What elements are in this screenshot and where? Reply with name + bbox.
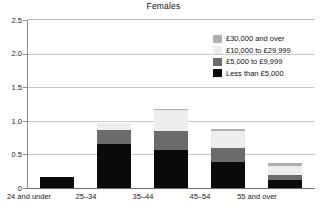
bar-segment-30000-and-over[interactable] [268, 163, 302, 166]
legend-item-10000-to-29999[interactable]: £10,000 to £29,999 [213, 45, 325, 57]
chart-title: Females [0, 1, 327, 11]
bar-segment-10000-to-29999[interactable] [211, 131, 245, 148]
bar-segment-less-than-5000[interactable] [97, 144, 131, 188]
chart-legend: £30,000 and over £10,000 to £29,999 £5,0… [213, 33, 325, 79]
bar-segment-less-than-5000[interactable] [268, 180, 302, 188]
legend-item-30000-and-over[interactable]: £30,000 and over [213, 33, 325, 45]
bar-segment-less-than-5000[interactable] [40, 177, 74, 188]
legend-swatch-less-than-5000 [213, 69, 222, 77]
y-axis-label-0-5: 0.5 [0, 150, 22, 159]
legend-item-5000-to-9999[interactable]: £5,000 to £9,999 [213, 56, 325, 68]
bar-segment-less-than-5000[interactable] [211, 162, 245, 188]
chart-container: Females 2.5 2.0 1.5 1.0 0.5 0 [0, 0, 327, 214]
gridline-1-5 [28, 87, 315, 88]
y-axis-label-2-0: 2.0 [0, 49, 22, 58]
legend-item-less-than-5000[interactable]: Less than £5,000 [213, 68, 325, 80]
bar-segment-10000-to-29999[interactable] [154, 110, 188, 131]
legend-label-5000-to-9999: £5,000 to £9,999 [226, 58, 282, 66]
bar-segment-30000-and-over[interactable] [211, 129, 245, 131]
y-axis-label-2-5: 2.5 [0, 16, 22, 25]
legend-swatch-30000-and-over [213, 35, 222, 43]
bar-segment-5000-to-9999[interactable] [154, 131, 188, 150]
legend-label-less-than-5000: Less than £5,000 [226, 70, 284, 78]
legend-label-30000-and-over: £30,000 and over [226, 35, 284, 43]
y-axis-label-1-5: 1.5 [0, 83, 22, 92]
bar-segment-10000-to-29999[interactable] [97, 123, 131, 130]
legend-swatch-5000-to-9999 [213, 58, 222, 66]
bar-segment-5000-to-9999[interactable] [211, 148, 245, 161]
bar-segment-10000-to-29999[interactable] [268, 166, 302, 175]
y-axis-label-1-0: 1.0 [0, 117, 22, 126]
gridline-2-5 [28, 19, 315, 20]
bar-segment-less-than-5000[interactable] [154, 150, 188, 188]
bar-segment-5000-to-9999[interactable] [97, 130, 131, 144]
x-axis-label-55-and-over: 55 and over [220, 192, 294, 201]
legend-swatch-10000-to-29999 [213, 46, 222, 54]
bar-segment-5000-to-9999[interactable] [268, 175, 302, 180]
legend-label-10000-to-29999: £10,000 to £29,999 [226, 47, 291, 55]
bar-segment-30000-and-over[interactable] [154, 109, 188, 110]
